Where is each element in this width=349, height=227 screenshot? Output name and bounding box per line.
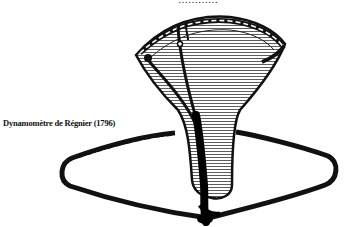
figure-caption: Dynamomètre de Régnier (1796) [3, 118, 115, 128]
dial-fan [136, 17, 285, 199]
top-caption-fragment: ………… [178, 0, 218, 5]
dynamometer-illustration [0, 0, 349, 227]
